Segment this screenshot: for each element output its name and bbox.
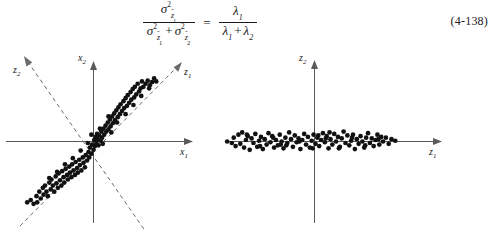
data-point xyxy=(317,144,322,149)
data-point xyxy=(96,143,101,148)
data-point xyxy=(304,142,309,147)
data-point xyxy=(363,143,368,148)
data-point xyxy=(328,137,333,142)
data-point xyxy=(268,140,273,145)
data-point xyxy=(154,79,159,84)
data-point xyxy=(85,141,90,146)
data-point xyxy=(283,135,288,140)
data-point xyxy=(287,130,292,135)
scatter-plot-rotated-coordinates: z2 z1 xyxy=(220,48,494,229)
data-point xyxy=(266,131,271,136)
data-point xyxy=(251,141,256,146)
axis-label-z2-rotated: z2 xyxy=(12,64,21,78)
data-point xyxy=(316,133,321,138)
rhs-denominator: λ1+λ2 xyxy=(219,23,258,41)
data-point xyxy=(309,138,314,143)
data-point xyxy=(321,131,326,136)
data-point xyxy=(366,131,371,136)
equals-sign: = xyxy=(203,16,210,29)
data-point xyxy=(83,165,88,170)
equation-4-138: σ2ˆz1 σ2ˆz1+σ2ˆz2 = λ1 λ1+λ2 xyxy=(0,2,400,43)
data-point xyxy=(52,189,57,194)
data-point xyxy=(242,145,247,150)
data-point xyxy=(377,142,382,147)
data-point xyxy=(38,196,43,201)
data-point xyxy=(330,142,335,147)
data-point xyxy=(323,136,328,141)
data-point xyxy=(35,200,40,205)
data-point xyxy=(334,139,339,144)
data-point xyxy=(62,180,67,185)
data-point xyxy=(247,148,252,153)
data-point xyxy=(47,176,52,181)
data-point xyxy=(98,126,103,131)
axis-label-z2: z2 xyxy=(298,52,307,66)
rhs-numerator: λ1 xyxy=(229,4,247,22)
data-point xyxy=(347,143,352,148)
data-point xyxy=(386,141,391,146)
data-point xyxy=(245,132,250,137)
data-point xyxy=(289,137,294,142)
data-point xyxy=(393,138,398,143)
data-point xyxy=(28,198,33,203)
data-point xyxy=(332,132,337,137)
data-point xyxy=(368,141,373,146)
data-point xyxy=(109,130,114,135)
data-point xyxy=(302,132,307,137)
data-point xyxy=(292,133,297,138)
data-point xyxy=(131,103,136,108)
axis-label-x2: x2 xyxy=(77,52,86,66)
data-point xyxy=(345,133,350,138)
data-point xyxy=(360,139,365,144)
data-point xyxy=(43,183,48,188)
right-scatter-points xyxy=(225,129,398,152)
data-point xyxy=(298,147,303,152)
data-point xyxy=(327,130,332,135)
data-point xyxy=(78,148,83,153)
data-point xyxy=(376,137,381,142)
data-point xyxy=(89,132,94,137)
figure-pair: x2 x1 z1 z2 z2 z1 xyxy=(0,48,494,229)
data-point xyxy=(306,135,311,140)
data-point xyxy=(271,135,276,140)
data-point xyxy=(233,144,238,149)
data-point xyxy=(278,142,283,147)
data-point xyxy=(34,194,39,199)
lhs-denominator: σ2ˆz1+σ2ˆz2 xyxy=(143,23,195,43)
right-plot-svg: z2 z1 xyxy=(220,48,494,229)
data-point xyxy=(341,129,346,134)
data-point xyxy=(54,181,59,186)
data-point xyxy=(350,135,355,140)
data-point xyxy=(277,132,282,137)
data-point xyxy=(46,194,51,199)
data-point xyxy=(291,144,296,149)
data-point xyxy=(253,132,258,137)
data-point xyxy=(249,136,254,141)
data-point xyxy=(381,139,386,144)
data-point xyxy=(79,168,84,173)
data-point xyxy=(145,78,150,83)
equation-number: (4-138) xyxy=(451,14,488,29)
data-point xyxy=(58,178,63,183)
axis-label-z1: z1 xyxy=(428,146,436,160)
data-point xyxy=(44,189,49,194)
data-point xyxy=(358,134,363,139)
data-point xyxy=(240,130,245,135)
data-point xyxy=(326,146,331,151)
data-point xyxy=(225,139,230,144)
data-point xyxy=(230,141,235,146)
data-point xyxy=(100,141,105,146)
data-point xyxy=(231,135,236,140)
data-point xyxy=(353,147,358,152)
data-point xyxy=(354,137,359,142)
data-point xyxy=(337,146,342,151)
data-point xyxy=(310,146,315,151)
lhs-fraction: σ2ˆz1 σ2ˆz1+σ2ˆz2 xyxy=(143,2,195,43)
data-point xyxy=(123,112,128,117)
data-point xyxy=(115,120,120,125)
equation-block: σ2ˆz1 σ2ˆz1+σ2ˆz2 = λ1 λ1+λ2 (4-138) xyxy=(0,2,494,48)
axis-label-z1-rotated: z1 xyxy=(183,66,191,80)
scatter-plot-original-coordinates: x2 x1 z1 z2 xyxy=(0,48,220,229)
data-point xyxy=(135,81,140,86)
data-point xyxy=(63,162,68,167)
